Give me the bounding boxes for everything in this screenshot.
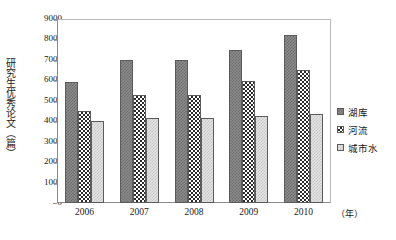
bar-group <box>284 19 323 203</box>
legend-swatch-icon <box>337 126 344 133</box>
bar-group <box>65 19 104 203</box>
bar <box>310 114 323 203</box>
x-axis-tick-label: 2010 <box>274 207 334 217</box>
bar <box>175 60 188 203</box>
y-axis-tick-label: 4000 <box>20 115 62 127</box>
y-axis-tick-label: 1000 <box>20 177 62 189</box>
bar <box>188 95 201 203</box>
legend-item-label: 湖库 <box>348 105 368 119</box>
bar <box>297 70 310 203</box>
legend-item-label: 城市水 <box>348 141 378 155</box>
bar <box>120 60 133 203</box>
legend-item[interactable]: 湖库 <box>337 104 395 119</box>
y-axis-tick-label: 8000 <box>20 33 62 45</box>
bar-group <box>229 19 268 203</box>
x-axis-tick-label: 2007 <box>109 207 169 217</box>
y-axis-tick-mark <box>53 203 57 204</box>
y-axis-tick-label: 2000 <box>20 156 62 168</box>
bars-layer <box>57 19 331 203</box>
y-axis-title: 研究生优秀论文（篇） <box>2 28 18 188</box>
bar-chart: 研究生优秀论文（篇） 01000200030004000500060007000… <box>0 0 396 240</box>
bar <box>201 118 214 203</box>
bar-group <box>175 19 214 203</box>
y-axis-tick-label: 6000 <box>20 74 62 86</box>
y-axis-tick-label: 3000 <box>20 136 62 148</box>
bar-group <box>120 19 159 203</box>
y-axis-tick-label: 5000 <box>20 95 62 107</box>
legend-swatch-icon <box>337 144 344 151</box>
x-axis-tick-label: 2008 <box>164 207 224 217</box>
bar <box>78 111 91 203</box>
legend: 湖库河流城市水 <box>337 104 395 158</box>
x-axis-tick-label: 2006 <box>54 207 114 217</box>
x-axis-tick-label: 2009 <box>219 207 279 217</box>
bar <box>91 121 104 203</box>
legend-item[interactable]: 河流 <box>337 122 395 137</box>
legend-item-label: 河流 <box>348 123 368 137</box>
bar <box>133 95 146 203</box>
bar <box>242 81 255 203</box>
x-axis-tick-labels: 20062007200820092010 <box>57 207 331 223</box>
x-axis-unit-label: （年） <box>336 207 363 220</box>
legend-item[interactable]: 城市水 <box>337 140 395 155</box>
legend-swatch-icon <box>337 108 344 115</box>
bar <box>229 50 242 203</box>
bar <box>146 118 159 203</box>
y-axis-tick-label: 9000 <box>20 13 62 25</box>
bar <box>255 116 268 203</box>
bar <box>65 82 78 203</box>
y-axis-tick-label: 7000 <box>20 54 62 66</box>
bar <box>284 35 297 203</box>
